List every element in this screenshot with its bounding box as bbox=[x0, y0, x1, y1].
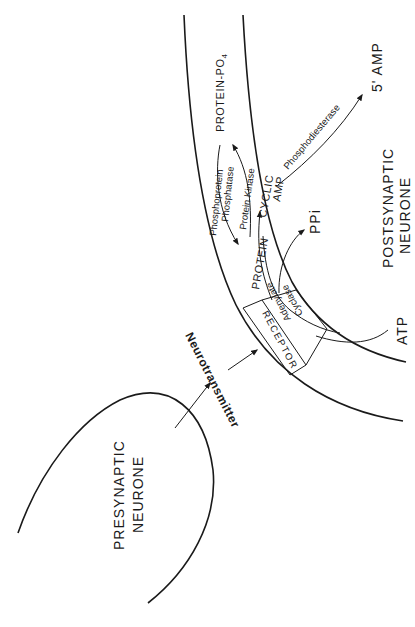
protein-label: PROTEIN bbox=[249, 237, 270, 291]
ppi-label: PPi bbox=[307, 209, 323, 234]
protein-kinase-label: Protein Kinase bbox=[237, 168, 256, 231]
postsynaptic-label: POSTSYNAPTIC NEURONE bbox=[380, 148, 413, 268]
svg-text:NEURONE: NEURONE bbox=[397, 177, 413, 254]
neurotransmitter-arrow-1 bbox=[175, 383, 210, 428]
neurotransmitter-arrow-2 bbox=[228, 350, 257, 370]
presynaptic-label: PRESYNAPTIC NEURONE bbox=[111, 440, 146, 550]
synapse-diagram: RECEPTOR Adenylate Cyclase Neurotransmit… bbox=[0, 0, 415, 627]
svg-text:NEURONE: NEURONE bbox=[130, 456, 146, 533]
protein-po4-label: PROTEIN-PO4 bbox=[214, 54, 229, 132]
atp-label: ATP bbox=[394, 316, 410, 345]
svg-text:PRESYNAPTIC: PRESYNAPTIC bbox=[111, 440, 127, 550]
phosphodiesterase-arrow bbox=[278, 95, 362, 185]
five-amp-label: 5' AMP bbox=[369, 42, 385, 92]
phosphodiesterase-label: Phosphodiesterase bbox=[281, 102, 342, 171]
neurotransmitter-label: Neurotransmitter bbox=[182, 330, 242, 430]
atp-curve bbox=[316, 330, 388, 342]
svg-text:POSTSYNAPTIC: POSTSYNAPTIC bbox=[380, 148, 396, 268]
